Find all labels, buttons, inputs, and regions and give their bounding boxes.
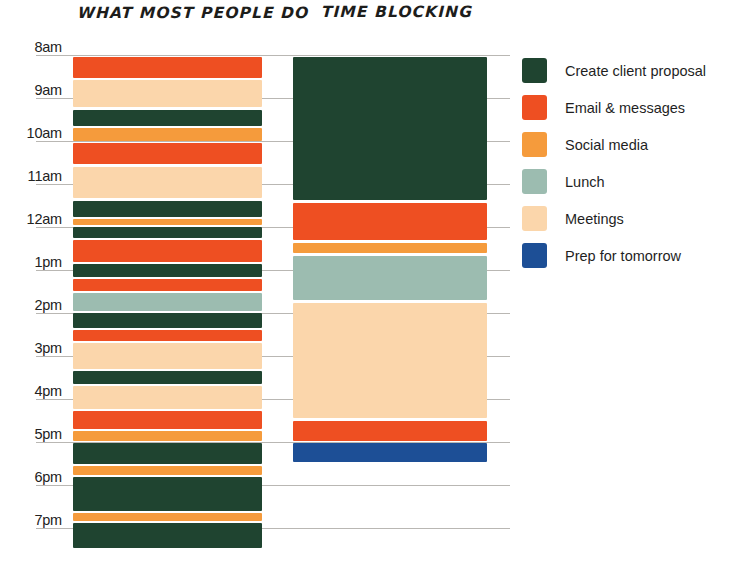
time-axis-tick-label: 11am — [2, 168, 62, 184]
schedule-block-lunch — [293, 256, 487, 300]
schedule-chart-plot-area: 8am9am10am11am12am1pm2pm3pm4pm5pm6pm7pm — [0, 0, 510, 568]
schedule-block-meetings — [73, 80, 262, 107]
schedule-block-email-messages — [73, 240, 262, 262]
schedule-block-email-messages — [73, 330, 262, 341]
chart-legend: Create client proposalEmail & messagesSo… — [522, 52, 737, 274]
legend-item[interactable]: Social media — [522, 126, 737, 163]
schedule-block-email-messages — [73, 411, 262, 429]
legend-item-label: Email & messages — [565, 100, 685, 116]
schedule-block-meetings — [73, 343, 262, 369]
schedule-block-create-client-proposal — [73, 523, 262, 548]
schedule-block-email-messages — [293, 203, 487, 240]
time-axis-tick: 3pm — [0, 340, 62, 358]
legend-item-label: Lunch — [565, 174, 605, 190]
schedule-block-social-media — [73, 219, 262, 225]
gridline — [36, 55, 510, 56]
schedule-block-social-media — [73, 431, 262, 441]
legend-item[interactable]: Prep for tomorrow — [522, 237, 737, 274]
schedule-block-social-media — [73, 466, 262, 475]
time-axis-tick: 9am — [0, 82, 62, 100]
schedule-block-social-media — [73, 513, 262, 521]
time-axis-tick: 5pm — [0, 426, 62, 444]
time-axis-tick: 7pm — [0, 512, 62, 530]
schedule-block-create-client-proposal — [73, 264, 262, 277]
time-axis-tick-label: 1pm — [2, 254, 62, 270]
legend-item-label: Social media — [565, 137, 648, 153]
time-axis-tick-label: 12am — [2, 211, 62, 227]
legend-swatch-icon — [522, 243, 547, 268]
schedule-block-email-messages — [73, 143, 262, 164]
legend-swatch-icon — [522, 58, 547, 83]
time-axis-tick: 11am — [0, 168, 62, 186]
time-axis-tick-label: 9am — [2, 82, 62, 98]
time-axis-tick: 6pm — [0, 469, 62, 487]
time-axis-tick-label: 6pm — [2, 469, 62, 485]
schedule-block-meetings — [293, 303, 487, 418]
schedule-block-email-messages — [73, 279, 262, 291]
schedule-block-meetings — [73, 386, 262, 409]
schedule-block-create-client-proposal — [73, 110, 262, 126]
schedule-block-create-client-proposal — [293, 57, 487, 200]
time-axis-tick: 8am — [0, 39, 62, 57]
schedule-block-create-client-proposal — [73, 227, 262, 238]
legend-swatch-icon — [522, 206, 547, 231]
time-axis-tick-label: 4pm — [2, 383, 62, 399]
legend-swatch-icon — [522, 132, 547, 157]
schedule-block-prep-for-tomorrow — [293, 443, 487, 462]
schedule-block-social-media — [73, 128, 262, 141]
legend-swatch-icon — [522, 169, 547, 194]
time-axis-tick: 1pm — [0, 254, 62, 272]
schedule-block-create-client-proposal — [73, 201, 262, 217]
time-axis-tick-label: 8am — [2, 39, 62, 55]
schedule-block-create-client-proposal — [73, 443, 262, 464]
schedule-block-meetings — [73, 167, 262, 198]
time-axis-tick-label: 10am — [2, 125, 62, 141]
schedule-block-create-client-proposal — [73, 371, 262, 384]
time-axis-tick-label: 3pm — [2, 340, 62, 356]
legend-item-label: Prep for tomorrow — [565, 248, 681, 264]
legend-item[interactable]: Create client proposal — [522, 52, 737, 89]
legend-item[interactable]: Meetings — [522, 200, 737, 237]
time-axis-tick: 4pm — [0, 383, 62, 401]
time-axis-tick: 10am — [0, 125, 62, 143]
time-axis-tick-label: 7pm — [2, 512, 62, 528]
time-axis-tick: 12am — [0, 211, 62, 229]
time-axis-tick: 2pm — [0, 297, 62, 315]
schedule-block-email-messages — [73, 57, 262, 78]
schedule-block-create-client-proposal — [73, 477, 262, 511]
schedule-block-social-media — [293, 243, 487, 253]
time-axis-tick-label: 5pm — [2, 426, 62, 442]
schedule-block-lunch — [73, 293, 262, 311]
legend-item[interactable]: Lunch — [522, 163, 737, 200]
schedule-block-create-client-proposal — [73, 313, 262, 328]
schedule-block-email-messages — [293, 421, 487, 441]
legend-item-label: Create client proposal — [565, 63, 706, 79]
time-axis-tick-label: 2pm — [2, 297, 62, 313]
legend-swatch-icon — [522, 95, 547, 120]
legend-item[interactable]: Email & messages — [522, 89, 737, 126]
legend-item-label: Meetings — [565, 211, 624, 227]
